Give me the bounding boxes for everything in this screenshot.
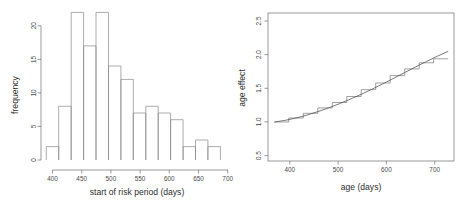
age-effect-x-axis-title: age (days) bbox=[341, 182, 382, 192]
age-effect-panel: 0.5 1.0 1.5 2.0 2.5 400 500 600 700 age … bbox=[237, 0, 475, 203]
age-effect-plot-frame bbox=[268, 13, 454, 161]
age-effect-step-line bbox=[274, 59, 448, 122]
x-tick-label-700: 700 bbox=[429, 166, 440, 173]
histogram-x-tick-labels: 400 450 500 550 600 650 700 bbox=[47, 175, 233, 182]
x-tick-label-500: 500 bbox=[106, 175, 117, 182]
y-tick-label-0p5: 0.5 bbox=[255, 151, 262, 160]
x-tick-label-400: 400 bbox=[47, 175, 58, 182]
x-tick-label-400: 400 bbox=[284, 166, 295, 173]
age-effect-y-axis-title: age effect bbox=[237, 69, 247, 107]
x-tick-label-650: 650 bbox=[193, 175, 204, 182]
y-tick-label-2p0: 2.0 bbox=[255, 50, 262, 59]
age-effect-curve bbox=[274, 51, 448, 122]
histogram-y-tick-labels: 0 5 10 15 20 bbox=[30, 22, 37, 162]
age-effect-x-tick-labels: 400 500 600 700 bbox=[284, 166, 440, 173]
histogram-x-axis-title: start of risk period (days) bbox=[90, 187, 185, 197]
histogram-y-ticks bbox=[38, 26, 42, 160]
x-tick-label-450: 450 bbox=[76, 175, 87, 182]
x-tick-label-550: 550 bbox=[135, 175, 146, 182]
histogram-bars bbox=[46, 12, 220, 160]
age-effect-x-ticks bbox=[290, 161, 435, 165]
y-tick-label-15: 15 bbox=[30, 55, 37, 63]
y-tick-label-5: 5 bbox=[30, 124, 37, 128]
histogram-x-ticks bbox=[53, 170, 228, 174]
x-tick-label-600: 600 bbox=[164, 175, 175, 182]
histogram-svg: 0 5 10 15 20 400 450 500 550 600 650 bbox=[0, 0, 237, 203]
y-tick-label-20: 20 bbox=[30, 22, 37, 30]
y-tick-label-1p5: 1.5 bbox=[255, 83, 262, 92]
histogram-bar-outline bbox=[46, 12, 220, 160]
age-effect-y-tick-labels: 0.5 1.0 1.5 2.0 2.5 bbox=[255, 16, 262, 160]
histogram-panel: 0 5 10 15 20 400 450 500 550 600 650 bbox=[0, 0, 237, 203]
x-tick-label-600: 600 bbox=[381, 166, 392, 173]
y-tick-label-0: 0 bbox=[30, 158, 37, 162]
histogram-y-axis-title: frequency bbox=[10, 75, 20, 113]
x-tick-label-500: 500 bbox=[333, 166, 344, 173]
y-tick-label-1p0: 1.0 bbox=[255, 117, 262, 126]
x-tick-label-700: 700 bbox=[222, 175, 233, 182]
y-tick-label-2p5: 2.5 bbox=[255, 16, 262, 25]
age-effect-svg: 0.5 1.0 1.5 2.0 2.5 400 500 600 700 age … bbox=[237, 0, 475, 203]
y-tick-label-10: 10 bbox=[30, 89, 37, 97]
age-effect-y-ticks bbox=[265, 21, 269, 156]
